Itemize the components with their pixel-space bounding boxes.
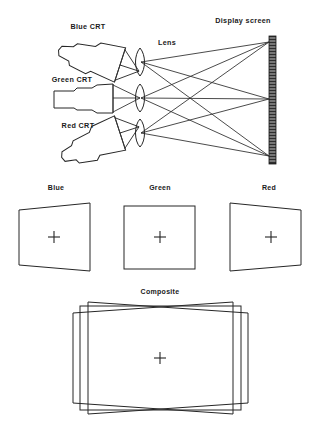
green-raster-crosshair — [154, 231, 166, 243]
crt-projection-figure: Display screen Lens — [0, 0, 321, 423]
composite-crosshair — [154, 352, 166, 364]
display-screen-label: Display screen — [215, 16, 271, 25]
ray-green-to-bottom — [141, 98, 269, 156]
green-crt — [54, 84, 140, 113]
red-channel-label: Red — [262, 184, 276, 191]
diagram-canvas: Display screen Lens — [0, 0, 321, 423]
blue-crt-label: Blue CRT — [70, 22, 105, 31]
blue-raster-crosshair — [48, 231, 60, 243]
composite-raster — [73, 302, 248, 414]
ray-green-to-top — [141, 42, 269, 98]
green-crt-label: Green CRT — [52, 75, 93, 84]
composite-label: Composite — [141, 288, 180, 296]
blue-raster — [19, 203, 90, 271]
display-screen-bar — [269, 36, 276, 164]
ray-red-to-top — [141, 42, 269, 133]
red-raster — [230, 203, 301, 271]
composite-red-outline — [73, 302, 233, 414]
ray-bundle — [141, 42, 269, 156]
green-channel-label: Green — [149, 184, 171, 191]
ray-blue-to-bottom — [141, 62, 269, 156]
ray-green-to-middle — [141, 98, 269, 99]
ray-red-to-bottom — [141, 133, 269, 156]
composite-blue-outline — [88, 302, 248, 414]
lens-label: Lens — [158, 38, 176, 47]
green-crt-envelope — [54, 84, 113, 113]
red-raster-crosshair — [265, 231, 277, 243]
red-crt — [55, 110, 145, 171]
ray-blue-to-middle — [141, 62, 269, 99]
blue-channel-label: Blue — [48, 184, 64, 191]
green-raster — [124, 206, 195, 269]
display-screen — [269, 36, 276, 164]
red-crt-label: Red CRT — [62, 121, 95, 130]
ray-red-to-middle — [141, 99, 269, 133]
